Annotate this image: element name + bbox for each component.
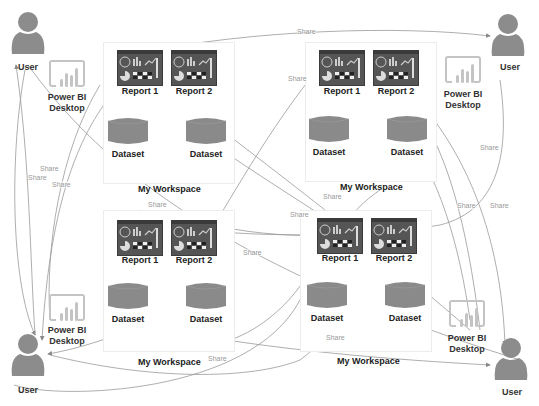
report-icon[interactable] [371, 218, 417, 254]
share-label: Share [490, 202, 509, 209]
workspace-title: My Workspace [340, 182, 403, 192]
report-label: Report 1 [312, 86, 372, 96]
share-label: Share [148, 201, 167, 208]
power-bi-desktop-icon[interactable] [444, 56, 482, 86]
dataset-label: Dataset [375, 313, 435, 323]
report-icon[interactable] [319, 50, 365, 86]
dataset-label: Dataset [297, 313, 357, 323]
report-label: Report 1 [310, 253, 370, 263]
report-label: Report 1 [110, 86, 170, 96]
dataset-icon[interactable] [106, 281, 150, 311]
share-label: Share [290, 211, 309, 218]
report-label: Report 1 [110, 255, 170, 265]
share-label: Share [52, 181, 71, 188]
user-label: User [492, 387, 532, 397]
dataset-label: Dataset [377, 147, 437, 157]
power-bi-desktop-label: Power BIDesktop [39, 325, 95, 347]
dataset-label: Dataset [176, 314, 236, 324]
share-label: Share [480, 144, 499, 151]
user-icon[interactable] [10, 10, 46, 56]
dataset-label: Dataset [98, 314, 158, 324]
workspace-title: My Workspace [138, 357, 201, 367]
dataset-icon[interactable] [307, 114, 351, 144]
share-label: Share [208, 355, 227, 362]
report-icon[interactable] [117, 50, 163, 86]
share-label: Share [288, 75, 307, 82]
share-label: Share [323, 193, 342, 200]
dataset-label: Dataset [176, 149, 236, 159]
dataset-icon[interactable] [184, 281, 228, 311]
dataset-icon[interactable] [385, 114, 429, 144]
user-label: User [8, 62, 48, 72]
user-label: User [490, 62, 530, 72]
report-icon[interactable] [317, 218, 363, 254]
dataset-icon[interactable] [305, 280, 349, 310]
workspace-title: My Workspace [138, 184, 201, 194]
workspace-title: My Workspace [337, 356, 400, 366]
power-bi-desktop-label: Power BIDesktop [39, 92, 95, 114]
user-icon[interactable] [493, 336, 529, 382]
report-icon[interactable] [373, 50, 419, 86]
share-label: Share [297, 28, 316, 35]
dataset-label: Dataset [98, 149, 158, 159]
power-bi-desktop-icon[interactable] [48, 60, 86, 90]
dataset-icon[interactable] [184, 116, 228, 146]
share-label: Share [243, 249, 262, 256]
user-icon[interactable] [490, 12, 526, 58]
share-label: Share [40, 165, 59, 172]
dataset-icon[interactable] [106, 116, 150, 146]
power-bi-desktop-icon[interactable] [448, 300, 486, 330]
report-icon[interactable] [171, 50, 217, 86]
share-label: Share [326, 334, 345, 341]
report-icon[interactable] [171, 220, 217, 256]
dataset-icon[interactable] [383, 280, 427, 310]
report-label: Report 2 [364, 253, 424, 263]
share-label: Share [28, 174, 47, 181]
share-label: Share [457, 202, 476, 209]
power-bi-desktop-icon[interactable] [48, 294, 86, 324]
report-label: Report 2 [164, 86, 224, 96]
report-label: Report 2 [366, 86, 426, 96]
user-icon[interactable] [10, 332, 46, 378]
power-bi-desktop-label: Power BIDesktop [435, 89, 491, 111]
dataset-label: Dataset [299, 147, 359, 157]
user-label: User [8, 385, 48, 395]
report-icon[interactable] [117, 220, 163, 256]
power-bi-desktop-label: Power BIDesktop [439, 333, 495, 355]
report-label: Report 2 [164, 255, 224, 265]
